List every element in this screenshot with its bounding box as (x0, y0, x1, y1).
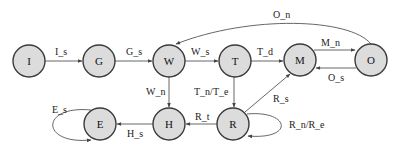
edge-R-R-loop (247, 114, 281, 137)
node-M: M (284, 44, 316, 76)
edge-label-G_s: G_s (126, 46, 142, 57)
edge-label-O_s: O_s (328, 72, 344, 83)
node-label-G: G (95, 55, 103, 67)
edge-label-T_n-T_e: T_n/T_e (194, 86, 229, 97)
node-G: G (83, 45, 115, 77)
node-label-W: W (164, 55, 175, 67)
node-R: R (217, 108, 249, 140)
node-H: H (153, 108, 185, 140)
node-label-I: I (27, 55, 31, 67)
node-O: O (355, 44, 387, 76)
edge-label-W_n: W_n (146, 86, 165, 97)
edge-label-T_d: T_d (257, 46, 273, 57)
node-W: W (153, 45, 185, 77)
edge-label-R_n-R_e: R_n/R_e (289, 119, 325, 130)
node-label-T: T (232, 55, 239, 67)
node-label-E: E (97, 118, 104, 130)
edge-label-R_t: R_t (195, 111, 210, 122)
node-T: T (219, 45, 251, 77)
node-E: E (84, 108, 116, 140)
node-label-R: R (229, 118, 237, 130)
edge-label-E_s: E_s (52, 104, 67, 115)
edge-O-W (176, 23, 371, 44)
edge-label-O_n: O_n (273, 9, 290, 20)
node-label-H: H (165, 118, 173, 130)
node-I: I (13, 45, 45, 77)
state-diagram: I_s G_s W_s T_d M_n O_s O_n W_n T_n/T_e … (0, 0, 397, 152)
edge-label-M_n: M_n (321, 37, 340, 48)
node-label-O: O (367, 54, 375, 66)
edge-label-R_s: R_s (273, 93, 289, 104)
edge-label-H_s: H_s (127, 128, 143, 139)
edge-label-W_s: W_s (191, 46, 209, 57)
node-label-M: M (295, 54, 305, 66)
edge-label-I_s: I_s (55, 46, 67, 57)
